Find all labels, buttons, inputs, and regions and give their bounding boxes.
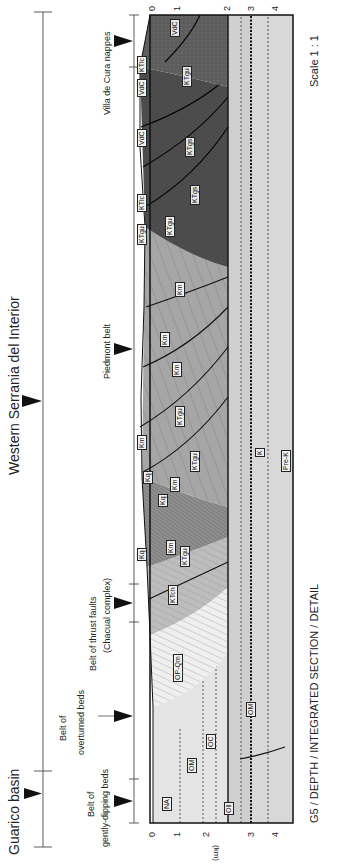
surface-label-ktlc-1: KTlc — [137, 194, 147, 212]
depth-tick-4: 4 — [270, 832, 280, 837]
unit-label-om: OM — [187, 758, 197, 773]
depth-tick-3-right: 3 — [246, 6, 256, 11]
unit-label-kq: Kq — [158, 494, 168, 507]
scale-label: Scale 1 : 1 — [308, 35, 320, 87]
surface-label-ktgu: KTgu — [137, 224, 147, 245]
unit-label-ktgu-4: KTgu — [165, 216, 175, 237]
unit-label-ktgu-3: KTgu — [175, 406, 185, 427]
unit-label-ktgs-1: KTgs — [190, 185, 200, 205]
depth-tick-3: 3 — [246, 832, 256, 837]
depth-unit: (km) — [212, 845, 221, 861]
depth-tick-1-right: 1 — [172, 6, 182, 11]
surface-label-vdc-2: VdC — [137, 79, 147, 97]
depth-tick-2: 2 — [201, 832, 211, 837]
unit-label-ktch: KTch — [168, 585, 178, 605]
unit-label-ktgu-2: KTgu — [190, 451, 200, 472]
belt-thrust-line1: Belt of thrust faults — [88, 596, 98, 671]
arrow-overturned — [114, 710, 133, 722]
unit-label-na: NA — [162, 797, 172, 811]
region-label-guarico: Guarico basin — [6, 769, 22, 855]
arrow-serrania — [22, 395, 42, 407]
unit-label-km-3: Km — [172, 363, 182, 378]
arrow-guarico — [24, 788, 42, 799]
belt-villa-de-cura: Villa de Cura nappes — [102, 32, 112, 115]
depth-tick-2-right: 2 — [222, 6, 232, 11]
belt-piedmont: Piedmont belt — [102, 324, 112, 379]
surface-label-kq-1: Kq — [137, 548, 147, 561]
unit-label-ktgu-5: KTgu — [182, 66, 192, 87]
surface-label-kq-2: Kq — [143, 471, 153, 484]
unit-label-oll: Oll — [224, 802, 234, 815]
unit-label-km-5: Km — [175, 283, 185, 298]
unit-label-pre-k: Pre-K — [281, 450, 291, 472]
belt-thrust-line2: (Chacual complex) — [102, 578, 112, 653]
belt-gently-dipping-line1: Belt of — [86, 791, 96, 817]
depth-tick-0: 0 — [147, 832, 157, 837]
surface-label-ktlc-2: KTlc — [137, 56, 147, 74]
arrow-thrust — [114, 597, 133, 609]
unit-label-km-2: Km — [170, 478, 180, 493]
cross-section-figure: Guarico basin Western Serrania del Inter… — [0, 0, 339, 867]
belt-overturned-line1: Belt of — [58, 715, 68, 741]
unit-label-k: K — [255, 448, 265, 457]
unit-label-opqm: OP-Qm — [173, 654, 183, 682]
surface-label-km: Km — [137, 436, 147, 451]
unit-label-ktgu-1: KTgu — [180, 546, 190, 567]
unit-label-km-4: Km — [160, 333, 170, 348]
arrow-piedmont — [114, 343, 133, 355]
depth-tick-0-right: 0 — [147, 6, 157, 11]
unit-label-vdc: VdC — [170, 19, 180, 37]
arrow-villa-de-cura — [114, 35, 133, 47]
unit-label-ktgs-2: KTgs — [185, 137, 195, 157]
belt-overturned-line2: overturned beds — [76, 690, 86, 755]
depth-tick-1: 1 — [172, 832, 182, 837]
surface-label-vdc-1: VdC — [137, 129, 147, 147]
depth-tick-4-right: 4 — [270, 6, 280, 11]
cross-section-graphic — [0, 0, 339, 867]
unit-label-oc: OC — [206, 735, 216, 750]
region-label-serrania: Western Serrania del Interior — [6, 296, 22, 475]
arrow-gently-dipping — [114, 795, 133, 807]
unit-label-km-1: Km — [166, 541, 176, 556]
unit-label-om-deep: OM — [246, 702, 256, 717]
belt-gently-dipping-line2: gently-dipping beds — [100, 769, 110, 847]
figure-caption: G5 / DEPTH / INTEGRATED SECTION / DETAIL — [308, 584, 320, 823]
